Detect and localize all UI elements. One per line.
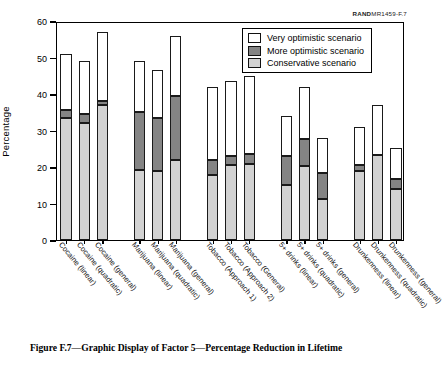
y-axis-tick-label: 20 (37, 164, 47, 173)
figure-caption: Figure F.7—Graphic Display of Factor 5—P… (30, 342, 405, 354)
legend-label-conservative: Conservative scenario (267, 58, 356, 68)
bar-segment-very-optimistic (317, 138, 328, 173)
bar-12 (354, 127, 365, 240)
bar-segment-more-optimistic (207, 160, 218, 175)
bar-8 (244, 76, 255, 240)
y-axis-tick-label: 40 (37, 91, 47, 100)
bar-2 (97, 32, 108, 240)
bar-segment-very-optimistic (225, 81, 236, 156)
legend-label-more-optimistic: More optimistic scenario (267, 46, 364, 56)
bar-segment-very-optimistic (60, 54, 71, 111)
bar-segment-conservative (152, 171, 163, 240)
rand-document-id: RANDMR1459-F.7 (353, 10, 407, 17)
bar-segment-conservative (134, 170, 145, 240)
rand-document-id-suffix: MR1459-F.7 (371, 10, 407, 17)
bar-segment-more-optimistic (134, 112, 145, 169)
legend-item-very-optimistic: Very optimistic scenario (248, 33, 364, 43)
legend-swatch-more-optimistic (248, 46, 261, 56)
bar-segment-very-optimistic (97, 32, 108, 101)
x-axis-labels: Cocaine (linear)Cocaine (quadratic)Cocai… (56, 241, 404, 336)
bar-segment-very-optimistic (152, 70, 163, 117)
legend-item-more-optimistic: More optimistic scenario (248, 46, 364, 56)
bar-segment-very-optimistic (207, 87, 218, 159)
bar-segment-more-optimistic (79, 114, 90, 123)
bar-4 (152, 70, 163, 240)
bar-6 (207, 87, 218, 240)
bar-segment-very-optimistic (79, 61, 90, 114)
bar-segment-conservative (281, 185, 292, 240)
bar-segment-more-optimistic (244, 154, 255, 164)
bar-segment-very-optimistic (134, 61, 145, 112)
bar-segment-conservative (207, 175, 218, 240)
bar-segment-very-optimistic (354, 127, 365, 165)
bar-segment-more-optimistic (152, 118, 163, 172)
y-axis: 0102030405060 (0, 22, 56, 241)
chart-legend: Very optimistic scenario More optimistic… (242, 28, 372, 73)
y-axis-tick-label: 50 (37, 54, 47, 63)
bar-segment-more-optimistic (390, 179, 401, 189)
bar-segment-conservative (317, 199, 328, 240)
bar-11 (317, 138, 328, 240)
y-axis-tick-label: 60 (37, 18, 47, 27)
bar-7 (225, 81, 236, 240)
legend-swatch-conservative (248, 58, 261, 68)
legend-label-very-optimistic: Very optimistic scenario (267, 33, 362, 43)
bar-10 (299, 87, 310, 240)
bar-3 (134, 61, 145, 240)
y-axis-tick-label: 30 (37, 127, 47, 136)
bar-segment-more-optimistic (225, 156, 236, 165)
bar-segment-conservative (244, 164, 255, 240)
rand-document-id-prefix: RAND (353, 10, 372, 17)
bar-segment-conservative (79, 123, 90, 240)
bar-segment-very-optimistic (170, 36, 181, 96)
bar-segment-conservative (60, 118, 71, 240)
bar-segment-conservative (299, 166, 310, 240)
bar-9 (281, 116, 292, 240)
bar-0 (60, 54, 71, 240)
bar-segment-conservative (390, 189, 401, 240)
y-axis-tick-label: 10 (37, 200, 47, 209)
bar-segment-very-optimistic (299, 87, 310, 139)
legend-swatch-very-optimistic (248, 33, 261, 43)
bar-segment-very-optimistic (281, 116, 292, 156)
bar-segment-more-optimistic (317, 173, 328, 199)
bar-1 (79, 61, 90, 240)
bar-5 (170, 36, 181, 240)
y-axis-tick-label: 0 (42, 237, 47, 246)
bar-segment-very-optimistic (244, 76, 255, 154)
bar-segment-conservative (225, 165, 236, 240)
bar-segment-conservative (170, 160, 181, 240)
bar-segment-conservative (354, 171, 365, 240)
bar-segment-more-optimistic (170, 96, 181, 160)
bar-segment-very-optimistic (390, 148, 401, 179)
bar-segment-very-optimistic (372, 105, 383, 155)
legend-item-conservative: Conservative scenario (248, 58, 364, 68)
bar-segment-more-optimistic (299, 139, 310, 166)
bar-13 (372, 105, 383, 240)
bar-14 (390, 148, 401, 240)
bar-segment-more-optimistic (60, 110, 71, 117)
bar-segment-more-optimistic (281, 156, 292, 185)
bar-segment-conservative (372, 155, 383, 240)
bar-segment-conservative (97, 105, 108, 240)
